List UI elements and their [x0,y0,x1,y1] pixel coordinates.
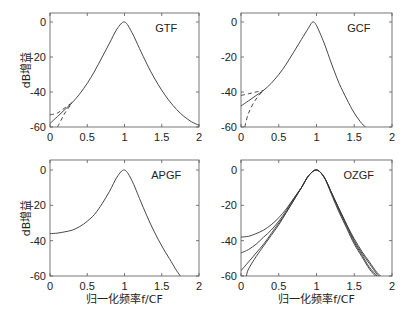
y-tick-label: -40 [221,235,237,247]
x-tick-label: 2 [389,280,395,292]
y-tick-label: -60 [30,121,46,133]
series-curve-4 [246,170,375,276]
y-axis-label: dB增益 [19,52,33,89]
x-tick-label: 0 [238,280,244,292]
series-solid [50,22,199,125]
y-tick-label: 0 [40,16,46,28]
x-axis-label: 归一化频率f/CF [278,292,355,306]
figure: 00.511.520-20-40-60GTFdB增益 00.511.520-20… [0,0,402,313]
y-tick-label: -60 [221,121,237,133]
x-tick-label: 0 [47,131,53,143]
panel-title: GTF [155,22,177,34]
y-tick-label: 0 [40,164,46,176]
x-axis-label: 归一化频率f/CF [86,292,163,306]
panel-ozgf: 00.511.520-20-40-60OZGF归一化频率f/CF [221,160,395,306]
y-tick-label: -60 [30,270,46,282]
y-tick-label: 0 [231,164,237,176]
x-tick-label: 2 [196,131,202,143]
x-tick-label: 1 [313,131,319,143]
panel-title: APGF [151,169,181,181]
x-tick-label: 1 [313,280,319,292]
x-tick-label: 1 [121,131,127,143]
series-curve-1 [241,170,381,276]
x-tick-label: 0.5 [80,280,95,292]
x-tick-label: 1.5 [347,280,362,292]
x-tick-label: 2 [196,280,202,292]
panel-gcf: 00.511.520-20-40-60GCF [221,13,395,143]
x-tick-label: 1.5 [154,131,169,143]
x-tick-label: 1 [121,280,127,292]
x-tick-label: 0.5 [271,131,286,143]
y-tick-label: -20 [221,51,237,63]
y-tick-label: -40 [221,86,237,98]
panel-title: GCF [347,22,371,34]
y-tick-label: -60 [221,270,237,282]
x-tick-label: 0.5 [80,131,95,143]
panel-title: OZGF [343,169,374,181]
x-tick-label: 1.5 [154,280,169,292]
series-curve-3 [241,170,377,276]
y-tick-label: 0 [231,16,237,28]
series-solid [241,22,366,127]
y-tick-label: -20 [221,199,237,211]
panel-apgf: 00.511.520-20-40-60APGFdB增益归一化频率f/CF [19,160,202,306]
x-tick-label: 0 [238,131,244,143]
panel-gtf: 00.511.520-20-40-60GTFdB增益 [19,13,202,143]
y-axis-label: dB增益 [19,200,33,237]
series-dashed-2 [245,90,264,127]
x-tick-label: 1.5 [347,131,362,143]
series-curve-2 [241,170,379,276]
x-tick-label: 2 [389,131,395,143]
series-solid [50,170,180,276]
x-tick-label: 0.5 [271,280,286,292]
x-tick-label: 0 [47,280,53,292]
